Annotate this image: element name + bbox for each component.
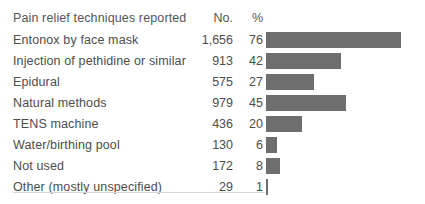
row-bar	[266, 158, 280, 174]
row-count: 913	[168, 51, 233, 72]
row-percent: 27	[226, 72, 263, 93]
row-count: 979	[168, 93, 233, 114]
row-count: 1,656	[168, 30, 233, 51]
table-bottom-rule	[13, 192, 265, 193]
column-header-technique: Pain relief techniques reported	[13, 8, 193, 29]
column-header-no: No.	[168, 8, 233, 29]
row-percent: 42	[226, 51, 263, 72]
row-bar-track	[266, 32, 421, 48]
table-header-row: Pain relief techniques reported No. %	[0, 8, 425, 29]
pain-relief-techniques-table: Pain relief techniques reported No. % En…	[0, 0, 425, 204]
table-row: Injection of pethidine or similar 913 42	[0, 51, 425, 72]
table-row: Not used 172 8	[0, 156, 425, 177]
row-percent: 1	[226, 177, 263, 198]
row-bar	[266, 116, 302, 132]
row-percent: 8	[226, 156, 263, 177]
row-percent: 45	[226, 93, 263, 114]
table-row: Other (mostly unspecified) 29 1	[0, 177, 425, 198]
row-label: Epidural	[13, 72, 193, 93]
table-row: Natural methods 979 45	[0, 93, 425, 114]
row-bar	[266, 95, 346, 111]
row-label: Injection of pethidine or similar	[13, 51, 193, 72]
row-bar-track	[266, 95, 421, 111]
table-row: TENS machine 436 20	[0, 114, 425, 135]
row-bar	[266, 74, 314, 90]
row-label: Natural methods	[13, 93, 193, 114]
row-label: Not used	[13, 156, 193, 177]
table-row: Epidural 575 27	[0, 72, 425, 93]
row-bar-track	[266, 179, 421, 195]
row-count: 436	[168, 114, 233, 135]
row-bar-track	[266, 158, 421, 174]
row-percent: 76	[226, 30, 263, 51]
row-bar-track	[266, 116, 421, 132]
row-bar	[266, 53, 341, 69]
row-bar	[266, 137, 277, 153]
row-bar-track	[266, 137, 421, 153]
row-count: 130	[168, 135, 233, 156]
row-label: TENS machine	[13, 114, 193, 135]
row-bar-track	[266, 74, 421, 90]
row-percent: 20	[226, 114, 263, 135]
row-label: Entonox by face mask	[13, 30, 193, 51]
row-count: 29	[168, 177, 233, 198]
column-header-pct: %	[226, 8, 263, 29]
table-row: Entonox by face mask 1,656 76	[0, 30, 425, 51]
row-label: Water/birthing pool	[13, 135, 193, 156]
row-percent: 6	[226, 135, 263, 156]
table-row: Water/birthing pool 130 6	[0, 135, 425, 156]
row-label: Other (mostly unspecified)	[13, 177, 193, 198]
row-bar	[266, 179, 268, 195]
row-count: 172	[168, 156, 233, 177]
row-count: 575	[168, 72, 233, 93]
row-bar-track	[266, 53, 421, 69]
row-bar	[266, 32, 401, 48]
